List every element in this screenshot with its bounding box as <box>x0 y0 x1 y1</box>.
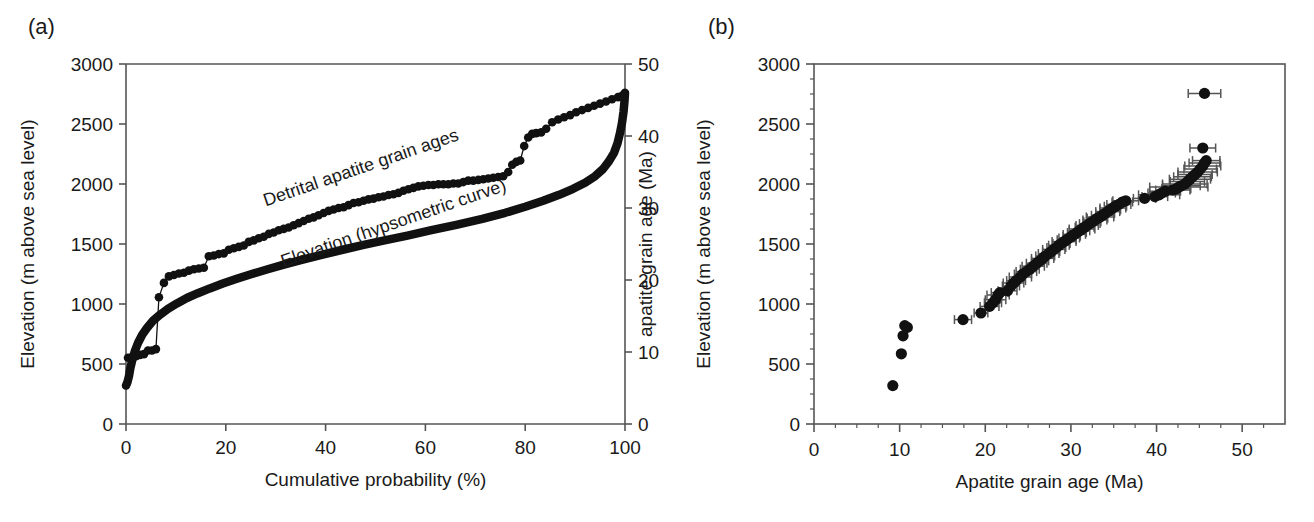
data-point-marker <box>155 293 164 302</box>
data-point-marker <box>1120 195 1131 206</box>
data-point-marker <box>957 314 968 325</box>
data-point-marker <box>887 380 898 391</box>
data-point-marker <box>1201 155 1212 166</box>
x-tick-label: 0 <box>121 437 132 458</box>
error-bars-group <box>954 89 1220 324</box>
y-tick-label-left: 500 <box>81 354 113 375</box>
data-point-marker <box>1139 193 1150 204</box>
y-tick-label-right: 10 <box>638 342 659 363</box>
x-tick-label: 10 <box>889 439 910 460</box>
x-tick-label: 20 <box>215 437 236 458</box>
y-tick-label-left: 2500 <box>71 114 113 135</box>
x-axis-title: Cumulative probability (%) <box>265 469 487 490</box>
y-tick-label-left: 1500 <box>71 234 113 255</box>
x-tick-label: 80 <box>515 437 536 458</box>
data-point-marker <box>504 168 513 177</box>
data-point-marker <box>200 263 209 272</box>
x-tick-label: 30 <box>1060 439 1081 460</box>
detrital-ages-label: Detrital apatite grain ages <box>261 125 461 211</box>
x-tick-label: 0 <box>809 439 820 460</box>
y-tick-label: 2500 <box>758 114 800 135</box>
y-tick-label: 2000 <box>758 174 800 195</box>
y-tick-label-right: 40 <box>638 126 659 147</box>
y-tick-label: 3000 <box>758 54 800 75</box>
data-point-marker <box>542 125 551 134</box>
x-tick-label: 20 <box>975 439 996 460</box>
figure-root: (a) 050010001500200025003000010203040500… <box>0 0 1314 522</box>
x-tick-label: 100 <box>609 437 641 458</box>
y-axis-title-right: apatite grain age (Ma) <box>635 151 656 337</box>
y-tick-label: 0 <box>789 414 800 435</box>
y-tick-label-left: 2000 <box>71 174 113 195</box>
data-point-marker <box>152 345 161 354</box>
panel-b-group: 05001000150020002500300001020304050Apati… <box>693 54 1285 493</box>
data-point-marker <box>896 348 907 359</box>
y-tick-label-left: 3000 <box>71 54 113 75</box>
x-tick-label: 50 <box>1232 439 1253 460</box>
x-tick-label: 60 <box>415 437 436 458</box>
data-point-marker <box>520 142 529 151</box>
plot-frame <box>814 64 1285 424</box>
data-point-marker <box>620 90 629 99</box>
y-tick-label: 1500 <box>758 234 800 255</box>
y-tick-label-left: 1000 <box>71 294 113 315</box>
y-axis-title-left: Elevation (m above sea level) <box>17 119 38 368</box>
y-tick-label-right: 50 <box>638 54 659 75</box>
data-point-marker <box>1197 142 1208 153</box>
data-point-marker <box>902 322 913 333</box>
panel-a-group: 0500100015002000250030000102030405002040… <box>17 54 659 491</box>
scatter-points-group <box>887 88 1212 391</box>
panel-a: (a) 050010001500200025003000010203040500… <box>0 0 660 522</box>
y-tick-label-left: 0 <box>102 414 113 435</box>
y-tick-label: 500 <box>768 354 800 375</box>
x-tick-label: 40 <box>1146 439 1167 460</box>
y-axis-title: Elevation (m above sea level) <box>693 119 714 368</box>
panel-a-plot: 0500100015002000250030000102030405002040… <box>0 0 660 522</box>
x-tick-label: 40 <box>315 437 336 458</box>
data-point-marker <box>516 156 525 165</box>
y-tick-label-right: 0 <box>638 414 649 435</box>
panel-b-plot: 05001000150020002500300001020304050Apati… <box>660 0 1314 522</box>
x-axis-title: Apatite grain age (Ma) <box>956 471 1144 492</box>
panel-b: (b) 05001000150020002500300001020304050A… <box>660 0 1314 522</box>
y-tick-label: 1000 <box>758 294 800 315</box>
data-point-marker <box>1199 88 1210 99</box>
